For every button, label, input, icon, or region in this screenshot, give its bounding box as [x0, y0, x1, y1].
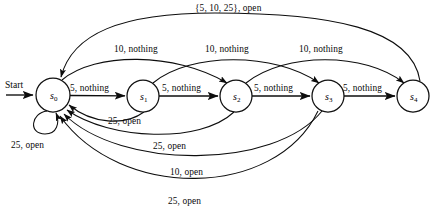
edge-label-s1-s0: 25, open [108, 117, 141, 126]
edge-label-s1-s3: 10, nothing [205, 45, 249, 54]
edge-s2-s0 [67, 110, 234, 134]
state-node-s4[interactable]: s4 [397, 80, 429, 112]
start-label: Start [5, 79, 23, 90]
edge-s0-self [34, 111, 58, 134]
edge-label-s0-s1: 5, nothing [70, 84, 109, 93]
edge-label-s3-s0-ten: 10, open [170, 168, 203, 177]
edge-label-s2-s4: 10, nothing [299, 45, 343, 54]
edge-label-s0-s2: 10, nothing [114, 45, 158, 54]
edge-label-s4-s0-top: {5, 10, 25}, open [195, 4, 261, 13]
edge-label-s1-s2: 5, nothing [162, 84, 201, 93]
state-machine-diagram: s0 s1 s2 s3 s4 Start 5, nothing 5, nothi… [0, 0, 433, 216]
state-node-s3[interactable]: s3 [312, 80, 344, 112]
fsm-canvas: s0 s1 s2 s3 s4 [0, 0, 433, 216]
edge-label-s0-self: 25, open [11, 141, 44, 150]
edge-label-s3-s0-twentyfive: 25, open [168, 197, 201, 206]
edge-label-s3-s4: 5, nothing [343, 84, 382, 93]
edge-label-s2-s3: 5, nothing [254, 84, 293, 93]
edge-label-s2-s0: 25, open [153, 142, 186, 151]
state-node-s2[interactable]: s2 [220, 80, 252, 112]
state-node-s0[interactable]: s0 [36, 78, 70, 112]
state-node-s1[interactable]: s1 [127, 80, 159, 112]
edge-s3-s0-ten [64, 111, 322, 156]
